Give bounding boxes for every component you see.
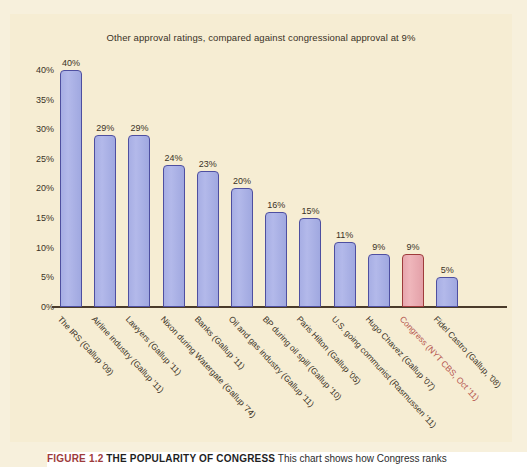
figure-caption-strip: FIGURE 1.2 THE POPULARITY OF CONGRESS Th… (0, 452, 527, 467)
bar[interactable] (265, 212, 287, 307)
bar[interactable] (231, 188, 253, 307)
bar[interactable] (94, 135, 116, 307)
bar[interactable] (60, 70, 82, 307)
bar-value-label: 9% (391, 242, 435, 252)
bar-column: 24% (163, 58, 185, 307)
bar-column: 5% (436, 58, 458, 307)
bar-column: 9% (368, 58, 390, 307)
figure-headline: THE POPULARITY OF CONGRESS (106, 453, 275, 464)
bar[interactable] (128, 135, 150, 307)
bar[interactable] (334, 242, 356, 307)
bar-value-label: 11% (323, 230, 367, 240)
y-axis-tick-label: 20% (36, 183, 54, 193)
figure-body: This chart shows how Congress ranks (275, 453, 447, 464)
y-axis-tick-label: 15% (36, 213, 54, 223)
y-axis-tick-label: 5% (41, 272, 54, 282)
bar-series: 40%29%29%24%23%20%16%15%11%9%9%5% (56, 58, 504, 307)
bar[interactable] (197, 171, 219, 307)
bar-value-label: 5% (425, 265, 469, 275)
bar-value-label: 23% (186, 159, 230, 169)
bar-column: 20% (231, 58, 253, 307)
bar-column: 23% (197, 58, 219, 307)
y-axis-tick-label: 25% (36, 154, 54, 164)
bar-value-label: 40% (49, 58, 93, 68)
bar-value-label: 15% (288, 206, 332, 216)
caption-left-pad (0, 452, 47, 467)
y-axis-tick-label: 35% (36, 95, 54, 105)
bar[interactable] (368, 254, 390, 307)
x-axis-category-labels: The IRS (Gallup '09)Airline industry (Ga… (56, 310, 516, 442)
y-axis-tick-label: 10% (36, 243, 54, 253)
chart-title: Other approval ratings, compared against… (10, 32, 512, 43)
page-root: Other approval ratings, compared against… (0, 0, 527, 467)
bar-column: 29% (128, 58, 150, 307)
bar-column: 29% (94, 58, 116, 307)
bar-column: 11% (334, 58, 356, 307)
y-axis: 0%5%10%15%20%25%30%35%40% (20, 58, 54, 307)
bar-value-label: 20% (220, 176, 264, 186)
bar-column: 16% (265, 58, 287, 307)
bar-column: 40% (60, 58, 82, 307)
figure-number: FIGURE 1.2 (47, 453, 103, 464)
figure-caption: FIGURE 1.2 THE POPULARITY OF CONGRESS Th… (47, 453, 447, 464)
x-axis-category-label: Fidel Castro (Gallup, '08) (432, 314, 504, 390)
x-axis-category-label: Paris Hilton (Gallup '05) (295, 314, 363, 386)
bar[interactable] (436, 277, 458, 307)
plot-area: 40%29%29%24%23%20%16%15%11%9%9%5% (56, 58, 504, 307)
bar-column: 15% (299, 58, 321, 307)
bar[interactable] (299, 218, 321, 307)
bar-value-label: 29% (117, 123, 161, 133)
bar-highlight[interactable] (402, 254, 424, 307)
bar[interactable] (163, 165, 185, 307)
chart-panel: Other approval ratings, compared against… (10, 14, 512, 442)
bar-column: 9% (402, 58, 424, 307)
y-axis-tick-label: 30% (36, 124, 54, 134)
x-axis-category-label: Hugo Chavez (Gallup '07) (363, 314, 437, 392)
